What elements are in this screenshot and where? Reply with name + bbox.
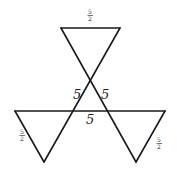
svg-text:5: 5 — [88, 8, 92, 15]
svg-text:2: 2 — [20, 135, 24, 142]
label-left-small: 5 2 — [20, 128, 26, 142]
label-bottom-side: 5 — [86, 112, 94, 127]
label-top-small: 5 2 — [88, 8, 94, 22]
svg-text:2: 2 — [88, 15, 92, 22]
triangle-diagram: 5 5 5 5 2 5 2 5 2 — [0, 0, 177, 171]
label-right-side: 5 — [101, 87, 109, 102]
svg-text:2: 2 — [157, 143, 161, 150]
label-right-small: 5 2 — [157, 136, 163, 150]
svg-text:5: 5 — [157, 136, 161, 143]
label-left-side: 5 — [73, 87, 81, 102]
svg-text:5: 5 — [20, 128, 24, 135]
